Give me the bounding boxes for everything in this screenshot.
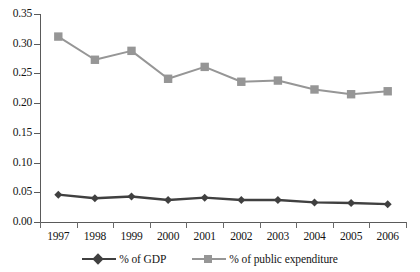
data-point-marker: [91, 194, 99, 202]
data-point-marker: [274, 196, 282, 204]
data-point-marker: [311, 198, 319, 206]
data-point-marker: [128, 192, 136, 200]
data-point-marker: [91, 56, 99, 64]
data-point-marker: [310, 85, 318, 93]
data-point-marker: [201, 63, 209, 71]
legend-label: % of public expenditure: [229, 253, 338, 266]
legend-label: % of GDP: [119, 253, 166, 266]
legend-square-marker-icon: [204, 255, 212, 263]
chart-container: 0.000.050.100.150.200.250.300.35 1997199…: [0, 0, 420, 272]
data-point-marker: [347, 199, 355, 207]
data-point-marker: [164, 196, 172, 204]
series-line: [58, 37, 387, 95]
legend-swatch: [192, 253, 226, 265]
data-point-marker: [384, 87, 392, 95]
legend-diamond-marker-icon: [93, 253, 104, 264]
legend-entry-1[interactable]: % of GDP: [82, 253, 166, 266]
data-point-marker: [347, 90, 355, 98]
data-point-marker: [54, 191, 62, 199]
data-point-marker: [274, 76, 282, 84]
data-point-marker: [384, 200, 392, 208]
data-point-marker: [237, 78, 245, 86]
data-point-marker: [127, 47, 135, 55]
data-point-marker: [201, 194, 209, 202]
series-1: [54, 191, 391, 209]
legend-swatch: [82, 253, 116, 265]
legend-entry-2[interactable]: % of public expenditure: [192, 253, 338, 266]
data-point-marker: [237, 196, 245, 204]
series-2: [54, 32, 392, 98]
data-point-marker: [54, 32, 62, 40]
series-line: [58, 195, 387, 205]
chart-legend: % of GDP% of public expenditure: [0, 249, 420, 269]
data-point-marker: [164, 75, 172, 83]
plot-series-layer: [0, 0, 420, 272]
